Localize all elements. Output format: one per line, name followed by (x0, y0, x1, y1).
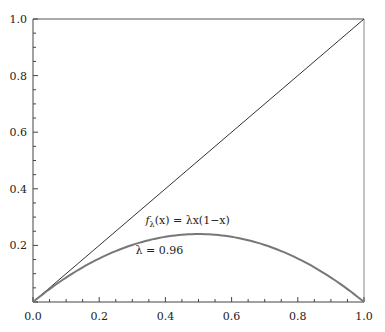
y-tick-label: 0.8 (10, 70, 28, 83)
x-tick-label: 0.2 (90, 310, 108, 323)
lambda-label: λ = 0.96 (136, 244, 184, 257)
plot-series (33, 19, 364, 302)
chart: 0.00.20.40.60.81.00.20.40.60.81.0 fλ(x) … (0, 0, 385, 332)
x-tick-label: 0.0 (24, 310, 42, 323)
x-tick-label: 0.4 (157, 310, 175, 323)
y-tick-label: 0.6 (10, 126, 28, 139)
logistic-curve (33, 234, 364, 302)
y-tick-label: 1.0 (10, 13, 28, 26)
function-label: fλ(x) = λx(1−x) (145, 214, 230, 229)
x-tick-label: 0.8 (289, 310, 307, 323)
axis-ticks: 0.00.20.40.60.81.00.20.40.60.81.0 (10, 13, 373, 323)
x-tick-label: 0.6 (223, 310, 241, 323)
x-tick-label: 1.0 (355, 310, 373, 323)
y-tick-label: 0.4 (10, 183, 28, 196)
diagonal-line (33, 19, 364, 302)
y-tick-label: 0.2 (10, 239, 28, 252)
